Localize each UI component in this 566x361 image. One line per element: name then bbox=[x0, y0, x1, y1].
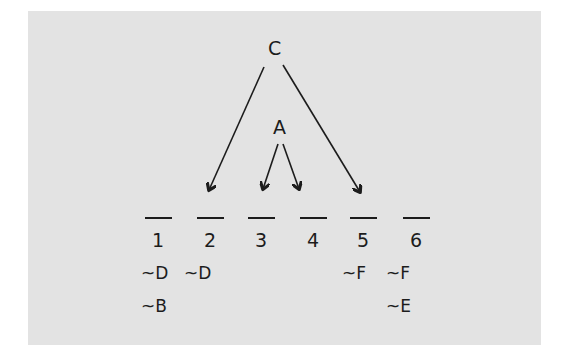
slot-2-number: 2 bbox=[197, 231, 223, 249]
arrow-c-to-slot-2 bbox=[209, 67, 264, 190]
slot-6-constraint-1: ~F bbox=[386, 264, 410, 282]
slot-3-number: 3 bbox=[248, 231, 274, 249]
slot-5-blank bbox=[350, 217, 377, 219]
slot-5-constraint-1: ~F bbox=[342, 264, 366, 282]
slot-1-constraint-1: ~D bbox=[141, 264, 168, 282]
arrow-a-to-slot-3 bbox=[263, 144, 278, 189]
slot-6-constraint-2: ~E bbox=[386, 297, 411, 315]
arrow-c-to-slot-5 bbox=[283, 65, 360, 192]
slot-2-constraint-1: ~D bbox=[184, 264, 211, 282]
slot-5-number: 5 bbox=[350, 231, 376, 249]
variable-c-label: C bbox=[268, 39, 281, 57]
slot-4-number: 4 bbox=[300, 231, 326, 249]
arrow-a-to-slot-4 bbox=[283, 144, 299, 189]
arrows-layer bbox=[0, 0, 566, 361]
slot-6-number: 6 bbox=[403, 231, 429, 249]
slot-2-blank bbox=[197, 217, 224, 219]
variable-a-label: A bbox=[273, 118, 286, 136]
slot-1-blank bbox=[145, 217, 172, 219]
slot-6-blank bbox=[403, 217, 430, 219]
slot-1-number: 1 bbox=[145, 231, 171, 249]
slot-1-constraint-2: ~B bbox=[141, 297, 167, 315]
slot-3-blank bbox=[248, 217, 275, 219]
slot-4-blank bbox=[300, 217, 327, 219]
